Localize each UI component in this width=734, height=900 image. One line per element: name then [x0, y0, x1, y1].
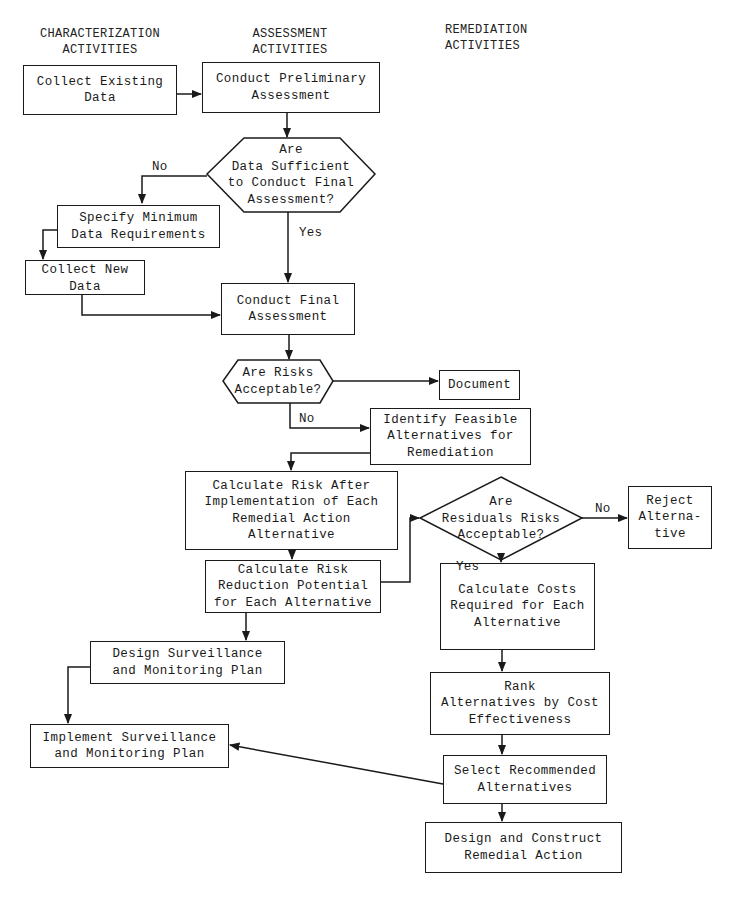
node-label: Design and Construct Remedial Action	[444, 831, 602, 864]
node-label: Implement Surveillance and Monitoring Pl…	[43, 730, 217, 763]
node-collect-existing-data[interactable]: Collect Existing Data	[23, 65, 177, 115]
node-identify-feasible-alternatives[interactable]: Identify Feasible Alternatives for Remed…	[370, 408, 531, 465]
node-label: Calculate Risk Reduction Potential for E…	[214, 562, 372, 612]
edge-label-residual-no: No	[595, 502, 611, 516]
node-data-sufficient-decision[interactable]: Are Data Sufficient to Conduct Final Ass…	[215, 138, 367, 212]
node-conduct-final-assessment[interactable]: Conduct Final Assessment	[221, 283, 355, 335]
node-reject-alternative[interactable]: Reject Alterna- tive	[628, 486, 712, 549]
node-design-construct-remedial-action[interactable]: Design and Construct Remedial Action	[425, 822, 622, 873]
node-label: Collect Existing Data	[37, 74, 163, 107]
flowchart-canvas: CHARACTERIZATION ACTIVITIES ASSESSMENT A…	[0, 0, 734, 900]
node-label: Conduct Final Assessment	[237, 293, 340, 326]
node-label: Identify Feasible Alternatives for Remed…	[383, 412, 517, 462]
node-rank-alternatives[interactable]: Rank Alternatives by Cost Effectiveness	[430, 672, 610, 735]
node-label: Document	[448, 377, 511, 394]
node-label: Calculate Costs Required for Each Altern…	[450, 582, 584, 632]
node-implement-surveillance-plan[interactable]: Implement Surveillance and Monitoring Pl…	[30, 724, 229, 768]
node-label: Calculate Risk After Implementation of E…	[205, 478, 379, 544]
node-design-surveillance-plan[interactable]: Design Surveillance and Monitoring Plan	[90, 641, 285, 684]
node-risks-acceptable-decision[interactable]: Are Risks Acceptable?	[228, 360, 328, 403]
node-calculate-risk-after[interactable]: Calculate Risk After Implementation of E…	[185, 471, 398, 550]
node-conduct-preliminary-assessment[interactable]: Conduct Preliminary Assessment	[202, 62, 380, 113]
node-calculate-costs[interactable]: Calculate Costs Required for Each Altern…	[440, 563, 595, 650]
column-header-remediation: REMEDIATION ACTIVITIES	[445, 22, 585, 54]
edge-label-data-no: No	[152, 160, 168, 174]
node-document[interactable]: Document	[439, 370, 520, 400]
column-header-assessment: ASSESSMENT ACTIVITIES	[230, 26, 350, 58]
edge-label-residual-yes: Yes	[456, 560, 479, 574]
node-label: Reject Alterna- tive	[638, 493, 701, 543]
node-residual-risks-decision[interactable]: Are Residuals Risks Acceptable?	[436, 494, 566, 544]
edge-label-risks-no: No	[299, 412, 315, 426]
node-label: Select Recommended Alternatives	[454, 763, 596, 796]
node-label: Are Residuals Risks Acceptable?	[442, 494, 561, 544]
node-label: Conduct Preliminary Assessment	[216, 71, 366, 104]
node-label: Are Data Sufficient to Conduct Final Ass…	[228, 142, 354, 208]
node-label: Rank Alternatives by Cost Effectiveness	[441, 679, 599, 729]
node-label: Specify Minimum Data Requirements	[71, 210, 205, 243]
edge-label-data-yes: Yes	[299, 226, 322, 240]
node-calculate-risk-reduction[interactable]: Calculate Risk Reduction Potential for E…	[205, 560, 381, 613]
column-header-characterization: CHARACTERIZATION ACTIVITIES	[20, 26, 180, 58]
node-label: Collect New Data	[42, 262, 129, 295]
node-collect-new-data[interactable]: Collect New Data	[25, 260, 145, 295]
node-label: Are Risks Acceptable?	[235, 365, 322, 398]
node-select-recommended-alternatives[interactable]: Select Recommended Alternatives	[443, 755, 607, 804]
node-specify-minimum-data[interactable]: Specify Minimum Data Requirements	[57, 205, 220, 248]
node-label: Design Surveillance and Monitoring Plan	[112, 646, 262, 679]
